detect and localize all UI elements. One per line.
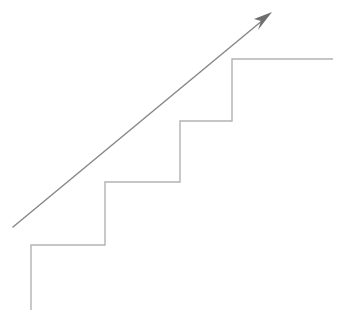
canvas-background	[0, 0, 340, 319]
staircase-diagram	[0, 0, 340, 319]
diagram-canvas	[0, 0, 340, 319]
